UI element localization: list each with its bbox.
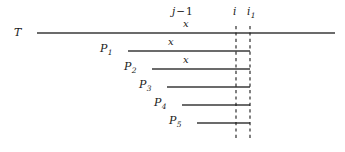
diagram-canvas <box>0 0 345 152</box>
pattern-P4-base: P <box>154 96 161 109</box>
pattern-label-P5: P5 <box>169 115 181 126</box>
pattern-P2-base: P <box>124 60 131 73</box>
index-one-operand: 1 <box>186 5 193 17</box>
pattern-P3-subscript: 3 <box>147 84 152 93</box>
index-label-j-minus-1: j−1 <box>172 6 193 17</box>
pattern-P1-subscript: 1 <box>108 48 113 57</box>
pattern-label-P1: P1 <box>100 43 112 54</box>
dashed-guides <box>236 26 250 138</box>
pattern-P5-subscript: 5 <box>177 120 182 129</box>
x-substring-label-T: x <box>183 19 189 29</box>
x-substring-label-P1: x <box>168 37 174 47</box>
pattern-label-P3: P3 <box>139 79 151 90</box>
index-i1-base: i <box>247 5 250 17</box>
x-substring-label-P2: x <box>183 55 189 65</box>
pattern-alignment-diagram: j−1 i i1 T x P1 x P2 x P3 P4 P5 <box>0 0 345 152</box>
pattern-P4-subscript: 4 <box>162 102 167 111</box>
index-label-i: i <box>233 6 236 17</box>
pattern-P5-base: P <box>169 114 176 127</box>
text-line-label-T: T <box>14 27 21 38</box>
solid-lines <box>37 33 335 123</box>
pattern-P3-base: P <box>139 78 146 91</box>
index-i1-subscript: 1 <box>251 11 256 20</box>
minus-operator: − <box>175 5 186 17</box>
index-label-i1: i1 <box>247 6 255 17</box>
pattern-label-P4: P4 <box>154 97 166 108</box>
pattern-P2-subscript: 2 <box>132 66 137 75</box>
pattern-label-P2: P2 <box>124 61 136 72</box>
pattern-P1-base: P <box>100 42 107 55</box>
